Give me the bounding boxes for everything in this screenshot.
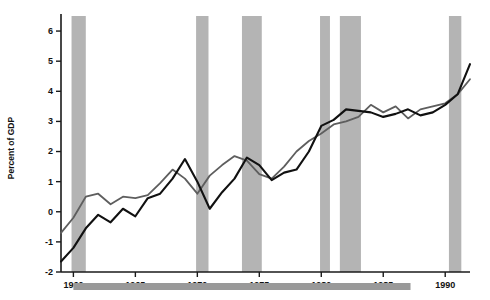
data-series-group <box>61 64 470 261</box>
recession-band-4 <box>320 16 330 272</box>
y-axis-title: Percent of GDP <box>6 117 16 180</box>
recession-bands-group <box>72 16 462 272</box>
footer-bar-group <box>73 283 410 290</box>
recession-band-3 <box>242 16 262 272</box>
y-tick-label-5: 5 <box>48 56 53 66</box>
recession-band-2 <box>196 16 208 272</box>
chart-container: -2-10123456 1960196519701975198019851990… <box>0 0 490 300</box>
y-tick-label-6: 6 <box>48 26 53 36</box>
percent-of-gdp-line-chart: -2-10123456 1960196519701975198019851990… <box>0 0 490 300</box>
x-tick-label-1990: 1990 <box>435 280 455 290</box>
recession-band-5 <box>340 16 361 272</box>
y-tick-label--2: -2 <box>45 267 53 277</box>
y-tick-label-4: 4 <box>48 86 53 96</box>
footer-period-bar <box>73 283 410 290</box>
y-tick-label-3: 3 <box>48 116 53 126</box>
line-series-black <box>61 64 470 261</box>
y-axis-ticks-group: -2-10123456 <box>45 26 61 277</box>
y-tick-label--1: -1 <box>45 237 53 247</box>
axes-group <box>61 14 470 272</box>
y-tick-label-2: 2 <box>48 146 53 156</box>
y-tick-label-0: 0 <box>48 207 53 217</box>
y-tick-label-1: 1 <box>48 177 53 187</box>
recession-band-6 <box>449 16 461 272</box>
